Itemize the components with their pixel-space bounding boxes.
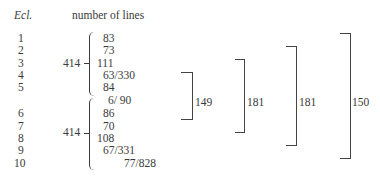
bracket-sum: 181 xyxy=(247,96,264,108)
line-count: 73 xyxy=(103,44,115,56)
left-brace-icon xyxy=(89,98,94,170)
bracket-sum: 181 xyxy=(299,96,316,108)
eclogue-number: 8 xyxy=(18,132,24,144)
eclogue-number: 7 xyxy=(18,120,24,132)
bracket-sum: 149 xyxy=(195,96,212,108)
line-count: 83 xyxy=(103,32,115,44)
right-bracket-icon xyxy=(181,72,193,120)
eclogue-number: 2 xyxy=(18,44,24,56)
left-brace-icon xyxy=(89,32,94,96)
line-count: 67/331 xyxy=(103,144,135,156)
group-total: 414 xyxy=(63,126,80,138)
group-total: 414 xyxy=(63,57,80,69)
right-bracket-icon xyxy=(286,46,297,146)
line-count: 63/330 xyxy=(103,69,135,81)
eclogue-number: 6 xyxy=(18,107,24,119)
line-count: 86 xyxy=(103,107,115,119)
brace-tip xyxy=(84,63,89,64)
eclogue-number: 5 xyxy=(18,81,24,93)
line-count: 6/ 90 xyxy=(108,94,131,106)
eclogue-number: 4 xyxy=(18,69,24,81)
eclogue-number: 1 xyxy=(18,32,24,44)
line-count: 111 xyxy=(97,57,113,69)
brace-tip xyxy=(84,133,89,134)
ecl-header: Ecl. xyxy=(14,9,32,21)
line-count: 70 xyxy=(103,120,115,132)
eclogue-number: 10 xyxy=(14,157,26,169)
eclogue-number: 9 xyxy=(18,144,24,156)
right-bracket-icon xyxy=(235,59,245,133)
lines-header: number of lines xyxy=(72,9,144,21)
eclogue-number: 3 xyxy=(18,57,24,69)
bracket-sum: 150 xyxy=(352,96,369,108)
line-count: 108 xyxy=(97,132,114,144)
line-count: 77/828 xyxy=(124,157,156,169)
right-bracket-icon xyxy=(340,33,351,159)
line-count: 84 xyxy=(103,81,115,93)
